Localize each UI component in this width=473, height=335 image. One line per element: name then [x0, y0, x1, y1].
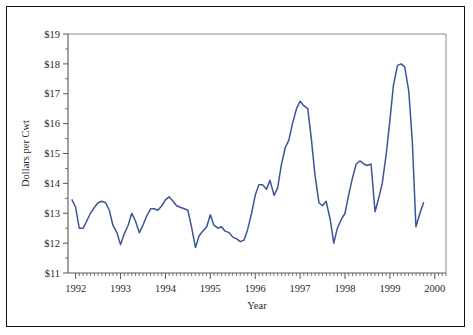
y-tick-label: $13 [44, 208, 60, 219]
x-tick-label: 1992 [65, 283, 86, 294]
line-chart: $11$12$13$14$15$16$17$18$191992199319941… [7, 7, 466, 328]
figure-frame: $11$12$13$14$15$16$17$18$191992199319941… [6, 6, 465, 327]
x-tick-label: 2000 [424, 283, 445, 294]
x-tick-label: 1994 [155, 283, 177, 294]
x-tick-label: 1993 [110, 283, 131, 294]
y-tick-label: $16 [44, 118, 60, 129]
plot-frame [68, 34, 446, 273]
x-tick-label: 1997 [290, 283, 311, 294]
y-tick-label: $12 [44, 238, 60, 249]
y-tick-label: $15 [44, 148, 60, 159]
x-tick-label: 1995 [200, 283, 221, 294]
y-axis-title: Dollars per Cwt [20, 120, 31, 187]
chart-area: $11$12$13$14$15$16$17$18$191992199319941… [7, 7, 466, 328]
x-tick-label: 1998 [334, 283, 355, 294]
y-tick-label: $18 [44, 59, 60, 70]
y-tick-label: $17 [44, 88, 60, 99]
x-tick-label: 1999 [379, 283, 400, 294]
x-tick-label: 1996 [245, 283, 266, 294]
x-axis-title: Year [247, 300, 267, 311]
y-tick-label: $11 [45, 268, 60, 279]
data-series-line [72, 64, 424, 248]
y-tick-label: $19 [44, 29, 60, 40]
y-tick-label: $14 [44, 178, 61, 189]
